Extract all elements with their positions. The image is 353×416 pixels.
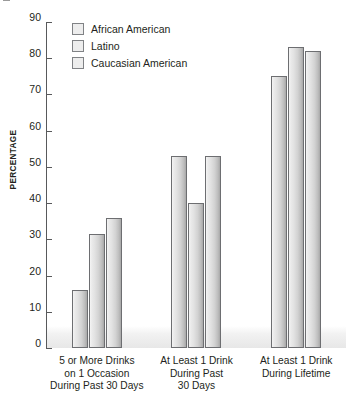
legend-item: Latino [72,37,187,54]
y-axis-tick: 0 [46,348,52,349]
y-axis-tick-label: 40 [1,198,41,199]
category-label-line: 5 or More Drinks [47,355,147,368]
bar [205,156,221,348]
y-axis-tick-label: 0 [1,343,41,344]
category-label: At Least 1 DrinkDuring Lifetime [246,355,346,393]
category-label-line: During Lifetime [246,368,346,381]
bar [171,156,187,348]
chart-legend: African AmericanLatinoCaucasian American [72,20,187,71]
category-label-line: During Past [147,368,247,381]
legend-label: Latino [91,40,120,52]
category-label-line: At Least 1 Drink [147,355,247,368]
cropped-title-fragment [0,0,353,3]
category-label-line: on 1 Occasion [47,368,147,381]
bar [288,47,304,348]
legend-swatch-icon [72,40,84,52]
y-axis-tick-label: 20 [1,271,41,272]
title-fragment-left [3,0,10,1]
bar-group [271,22,322,348]
y-axis-tick-label: 70 [1,89,41,90]
y-axis-tick-label: 90 [1,17,41,18]
bar [72,290,88,348]
legend-label: African American [91,23,170,35]
y-axis-tick-label: 10 [1,307,41,308]
legend-swatch-icon [72,57,84,69]
category-label: 5 or More Drinkson 1 OccasionDuring Past… [47,355,147,393]
bar [106,218,122,348]
y-axis-tick-label: 50 [1,162,41,163]
bar [305,51,321,348]
bar [271,76,287,348]
bar [89,234,105,348]
bar [188,203,204,348]
x-axis-category-labels: 5 or More Drinkson 1 OccasionDuring Past… [47,355,346,393]
legend-item: Caucasian American [72,54,187,71]
legend-swatch-icon [72,23,84,35]
category-label-line: At Least 1 Drink [246,355,346,368]
category-label-line: During Past 30 Days [47,380,147,393]
category-label: At Least 1 DrinkDuring Past30 Days [147,355,247,393]
y-axis-title: PERCENTAGE [9,100,18,220]
category-label-line: 30 Days [147,380,247,393]
legend-label: Caucasian American [91,57,187,69]
y-axis-tick-label: 30 [1,234,41,235]
y-axis-tick-label: 60 [1,126,41,127]
legend-item: African American [72,20,187,37]
bar-chart: PERCENTAGE 0102030405060708090 African A… [0,0,353,416]
y-axis-tick-label: 80 [1,53,41,54]
